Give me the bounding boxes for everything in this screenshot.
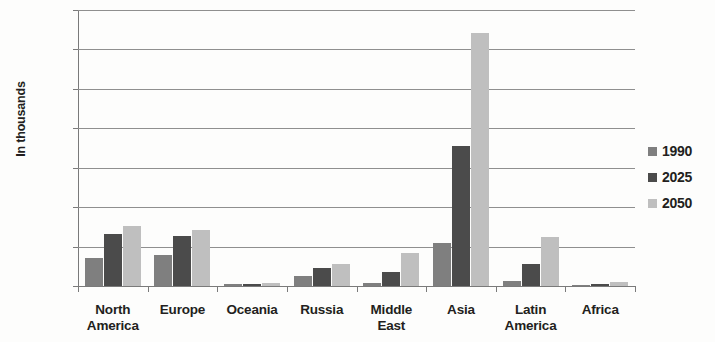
bar-group	[148, 10, 218, 286]
x-tick-mark	[287, 286, 288, 292]
bar	[572, 285, 590, 286]
legend-item-2050[interactable]: 2050	[648, 190, 715, 216]
legend-item-2025[interactable]: 2025	[648, 164, 715, 190]
bar	[522, 264, 540, 286]
bar	[382, 272, 400, 286]
bar	[173, 236, 191, 286]
bar	[294, 276, 312, 286]
x-axis-label-line: East	[343, 318, 439, 334]
x-tick-mark	[565, 286, 566, 292]
bar-chart: In thousands 350030002500200015001000500…	[0, 0, 715, 342]
legend-swatch-icon	[648, 199, 657, 208]
bar	[154, 255, 172, 286]
x-axis-label: Africa	[552, 302, 648, 318]
legend-label: 1990	[662, 143, 692, 159]
bar-group	[426, 10, 496, 286]
legend-label: 2025	[662, 169, 692, 185]
bar-group	[217, 10, 287, 286]
bar	[262, 283, 280, 286]
bar	[123, 226, 141, 286]
x-tick-mark	[357, 286, 358, 292]
x-tick-mark	[217, 286, 218, 292]
bars-layer	[78, 10, 635, 286]
bar-group	[78, 10, 148, 286]
bar	[503, 281, 521, 286]
x-tick-mark	[496, 286, 497, 292]
bar	[433, 243, 451, 286]
bar	[471, 33, 489, 286]
bar	[85, 258, 103, 286]
bar-group	[496, 10, 566, 286]
bar	[332, 264, 350, 286]
bar	[224, 284, 242, 286]
x-axis-label-line: Africa	[552, 302, 648, 318]
bar	[192, 230, 210, 286]
bar	[541, 237, 559, 286]
legend-swatch-icon	[648, 173, 657, 182]
x-tick-mark	[148, 286, 149, 292]
legend: 199020252050	[648, 138, 715, 216]
bar	[610, 282, 628, 286]
x-axis-label-line: America	[65, 318, 161, 334]
x-tick-mark	[426, 286, 427, 292]
x-axis-label-line: America	[483, 318, 579, 334]
x-tick-mark	[635, 286, 636, 292]
y-axis-title: In thousands	[14, 54, 28, 184]
bar-group	[287, 10, 357, 286]
bar-group	[565, 10, 635, 286]
legend-swatch-icon	[648, 147, 657, 156]
bar	[591, 284, 609, 286]
legend-item-1990[interactable]: 1990	[648, 138, 715, 164]
x-tick-mark-origin	[78, 286, 79, 292]
bar	[363, 283, 381, 286]
bar	[104, 234, 122, 286]
bar	[452, 146, 470, 286]
bar	[313, 268, 331, 286]
bar-group	[357, 10, 427, 286]
bar	[243, 284, 261, 286]
legend-label: 2050	[662, 195, 692, 211]
bar	[401, 253, 419, 286]
plot-area: 3500300025002000150010005000 NorthAmeric…	[78, 10, 635, 286]
